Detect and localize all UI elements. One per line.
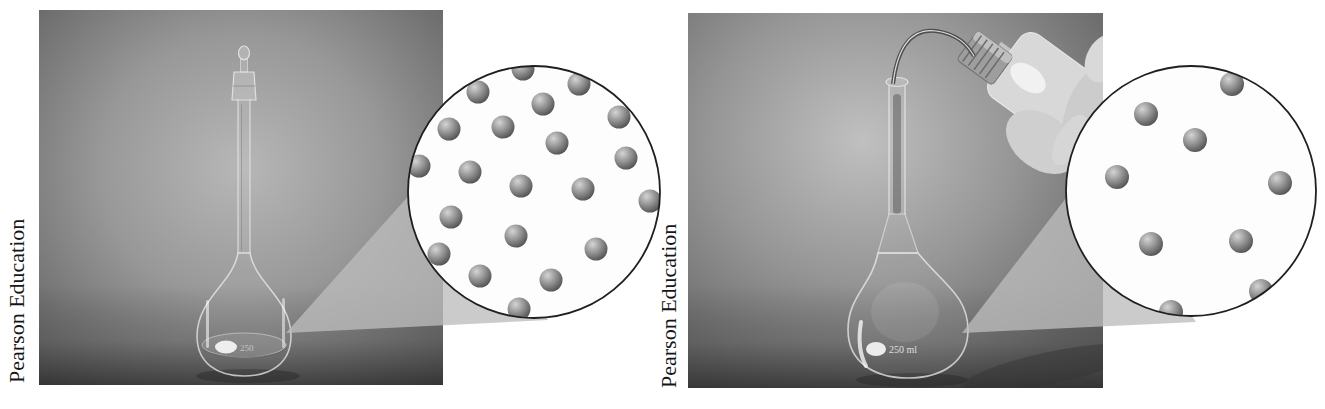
solute-particle bbox=[540, 269, 563, 292]
flask-label-spot bbox=[866, 342, 886, 356]
flask-label-spot bbox=[215, 341, 237, 354]
solute-particle bbox=[510, 175, 533, 198]
dilution-figure: Pearson Education bbox=[0, 0, 1325, 409]
solute-particle bbox=[1105, 165, 1129, 189]
solute-particle bbox=[492, 116, 515, 139]
solute-particle bbox=[440, 206, 463, 229]
glass-highlight bbox=[282, 298, 285, 348]
panel-before-dilution: Pearson Education bbox=[4, 10, 662, 385]
solute-particle bbox=[546, 132, 569, 155]
figure-canvas: Pearson Education bbox=[0, 0, 1325, 409]
solute-particle bbox=[608, 106, 631, 129]
panel-after-dilution: Pearson Education 2 bbox=[656, 13, 1316, 402]
solute-particle bbox=[572, 178, 595, 201]
flask-neck bbox=[238, 100, 250, 253]
solute-particle bbox=[532, 93, 555, 116]
glass-highlight bbox=[206, 300, 209, 348]
solute-particle bbox=[568, 73, 591, 96]
water-column bbox=[893, 94, 901, 214]
solute-particle bbox=[428, 243, 451, 266]
solute-particle bbox=[1139, 232, 1163, 256]
solute-particle bbox=[1268, 171, 1292, 195]
solute-particle bbox=[1134, 102, 1158, 126]
flask-volume-label-left: 250 bbox=[240, 343, 254, 353]
liquid-reflection bbox=[871, 282, 939, 342]
photo-left: 250 bbox=[39, 10, 443, 385]
solute-particle bbox=[615, 147, 638, 170]
flask-volume-label-right: 250 ml bbox=[889, 344, 917, 355]
photo-credit-left: Pearson Education bbox=[4, 219, 29, 383]
solute-particle bbox=[469, 265, 492, 288]
flask-mouth bbox=[886, 78, 908, 87]
solute-particle bbox=[1183, 128, 1207, 152]
solute-particle bbox=[438, 118, 461, 141]
solute-particle bbox=[585, 238, 608, 261]
solute-particle bbox=[512, 58, 535, 81]
solute-particle bbox=[505, 225, 528, 248]
solute-particle bbox=[459, 161, 482, 184]
flask-neck bbox=[889, 86, 905, 214]
photo-credit-right: Pearson Education bbox=[656, 224, 681, 388]
solute-particle bbox=[1229, 229, 1253, 253]
